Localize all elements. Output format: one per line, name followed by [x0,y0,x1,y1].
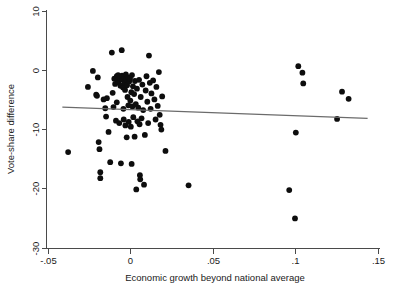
data-point [300,70,306,76]
data-point [132,134,138,140]
data-point [129,161,135,167]
data-point [152,96,158,102]
y-axis-ticks [42,12,47,249]
data-point [295,63,301,69]
chart-canvas: 100-10-20-30 Vote-share difference -.050… [0,0,393,290]
data-point [142,132,148,138]
data-point [150,78,156,84]
data-point [118,160,124,166]
x-tick-label: .15 [372,255,385,266]
data-point [146,53,152,59]
data-point [139,82,145,88]
x-axis-ticks [49,249,379,254]
data-point [103,114,109,120]
data-point [114,99,120,105]
data-points-layer [65,47,351,221]
x-tick-label: -.05 [40,255,56,266]
data-point [97,175,103,181]
data-point [293,130,299,136]
data-point [286,187,292,193]
data-point [129,72,135,78]
data-point [156,69,162,75]
data-point [96,139,102,145]
data-point [144,73,150,79]
y-tick-label: 10 [30,6,41,17]
data-point [154,84,160,90]
data-point [90,68,96,74]
data-point [159,94,165,100]
x-tick-label: .1 [292,255,300,266]
data-point [153,117,159,123]
data-point [133,187,139,193]
data-point [186,182,192,188]
data-point [158,127,164,133]
data-point [127,98,133,104]
data-point [124,134,130,140]
y-axis-tick-labels: 100-10-20-30 [30,6,41,255]
data-point [137,176,143,182]
y-axis-group: 100-10-20-30 Vote-share difference [5,6,47,255]
y-axis-title: Vote-share difference [5,84,16,174]
data-point [107,159,113,165]
data-point [141,182,147,188]
scatter-plot-figure: 100-10-20-30 Vote-share difference -.050… [0,0,393,290]
data-point [137,121,143,127]
x-tick-label: .05 [207,255,220,266]
data-point [145,120,151,126]
data-point [300,80,306,86]
data-point [131,91,137,97]
data-point [109,50,115,56]
data-point [110,90,116,96]
y-tick-label: -30 [30,242,41,256]
x-axis-group: -.050.05.1.15 Economic growth beyond nat… [40,249,385,284]
data-point [149,91,155,97]
y-tick-label: -10 [30,123,41,137]
data-point [97,169,103,175]
data-point [94,93,100,99]
data-point [119,47,125,53]
data-point [85,84,91,90]
data-point [138,94,144,100]
data-point [104,95,110,101]
data-point [143,88,149,94]
y-tick-label: -20 [30,182,41,196]
data-point [144,99,150,105]
data-point [97,146,103,152]
data-point [130,114,136,120]
data-point [139,115,145,121]
data-point [134,86,140,92]
data-point [157,112,163,118]
data-point [95,75,101,81]
x-axis-tick-labels: -.050.05.1.15 [40,255,385,266]
data-point [65,149,71,155]
data-point [136,77,142,83]
data-point [346,96,352,102]
x-axis-title: Economic growth beyond national average [125,272,305,283]
y-tick-label: 0 [30,68,41,73]
data-point [155,103,161,109]
data-point [339,89,345,95]
data-point [292,216,298,222]
data-point [121,117,127,123]
data-point [128,124,134,130]
data-point [163,148,169,154]
x-tick-label: 0 [128,255,133,266]
data-point [106,129,112,135]
